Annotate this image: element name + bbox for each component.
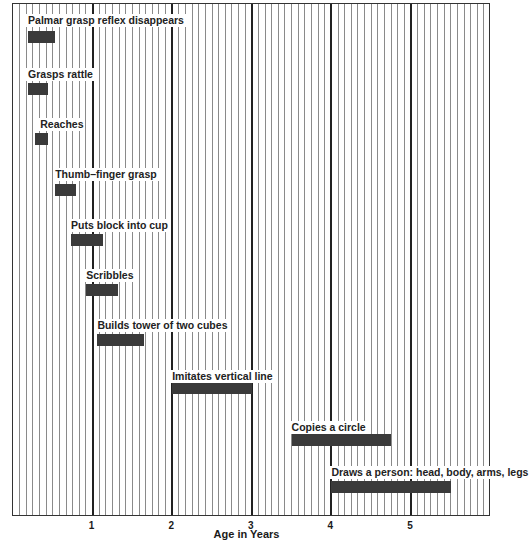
milestone-bar (55, 184, 76, 196)
minor-gridline (205, 4, 206, 515)
minor-gridline (165, 4, 166, 515)
minor-gridline (284, 4, 285, 515)
minor-gridline (132, 4, 133, 515)
minor-gridline (19, 4, 20, 515)
milestone-label: Builds tower of two cubes (95, 319, 229, 332)
minor-gridline (185, 4, 186, 515)
minor-gridline (464, 4, 465, 515)
milestone-bar (292, 434, 392, 446)
chart-plot-area: Palmar grasp reflex disappearsGrasps rat… (12, 3, 490, 516)
milestone-label: Draws a person: head, body, arms, legs (329, 466, 530, 479)
minor-gridline (119, 4, 120, 515)
minor-gridline (265, 4, 266, 515)
minor-gridline (218, 4, 219, 515)
minor-gridline (258, 4, 259, 515)
major-gridline (251, 4, 253, 515)
milestone-label: Puts block into cup (69, 219, 170, 232)
minor-gridline (139, 4, 140, 515)
minor-gridline (152, 4, 153, 515)
milestone-bar (97, 334, 144, 346)
milestone-label: Grasps rattle (26, 68, 95, 81)
minor-gridline (424, 4, 425, 515)
minor-gridline (404, 4, 405, 515)
minor-gridline (450, 4, 451, 515)
minor-gridline (430, 4, 431, 515)
minor-gridline (225, 4, 226, 515)
minor-gridline (245, 4, 246, 515)
minor-gridline (145, 4, 146, 515)
minor-gridline (417, 4, 418, 515)
milestone-bar (35, 133, 48, 145)
milestone-label: Reaches (38, 118, 85, 131)
minor-gridline (397, 4, 398, 515)
milestone-bar (331, 481, 450, 493)
minor-gridline (198, 4, 199, 515)
milestone-bar (28, 83, 48, 95)
minor-gridline (238, 4, 239, 515)
minor-gridline (125, 4, 126, 515)
minor-gridline (470, 4, 471, 515)
milestone-label: Scribbles (84, 269, 135, 282)
milestone-label: Thumb–finger grasp (53, 168, 159, 181)
minor-gridline (112, 4, 113, 515)
minor-gridline (437, 4, 438, 515)
milestone-bar (28, 31, 55, 43)
minor-gridline (278, 4, 279, 515)
major-gridline (171, 4, 173, 515)
minor-gridline (231, 4, 232, 515)
milestone-bar (71, 234, 103, 246)
minor-gridline (192, 4, 193, 515)
minor-gridline (477, 4, 478, 515)
minor-gridline (105, 4, 106, 515)
milestone-label: Copies a circle (290, 421, 368, 434)
minor-gridline (212, 4, 213, 515)
milestone-label: Imitates vertical line (170, 370, 274, 383)
minor-gridline (158, 4, 159, 515)
minor-gridline (457, 4, 458, 515)
x-axis-label: Age in Years (0, 528, 493, 540)
minor-gridline (99, 4, 100, 515)
milestone-bar (86, 284, 118, 296)
minor-gridline (178, 4, 179, 515)
milestone-bar (172, 382, 252, 394)
minor-gridline (271, 4, 272, 515)
minor-gridline (483, 4, 484, 515)
major-gridline (410, 4, 412, 515)
minor-gridline (444, 4, 445, 515)
milestone-label: Palmar grasp reflex disappears (26, 14, 186, 27)
